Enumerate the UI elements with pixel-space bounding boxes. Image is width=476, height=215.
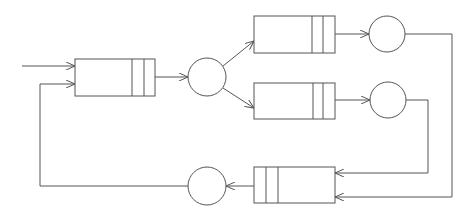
queue-1	[75, 59, 155, 96]
arrow-s1-to-q3	[223, 88, 254, 108]
arrow-s1-to-q2	[223, 41, 254, 66]
feedback-arrow-s4-to-q1	[40, 84, 188, 186]
server-4	[188, 167, 226, 205]
queue-2	[254, 16, 335, 53]
server-2	[369, 16, 405, 52]
queue-4	[254, 167, 335, 203]
server-3	[370, 82, 406, 118]
queueing-network-diagram	[0, 0, 476, 215]
queue-3	[254, 83, 335, 119]
server-1	[188, 58, 226, 96]
